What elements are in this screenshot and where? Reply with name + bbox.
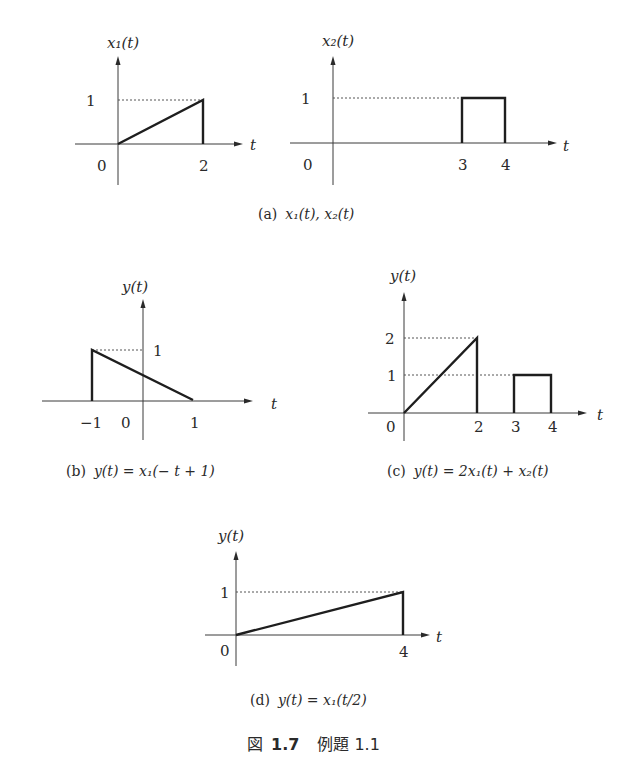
figure-caption: 図1.7例題 1.1 — [247, 735, 380, 754]
figure-1-7: x₁(t) 1 0 2 t x₂(t) 1 0 3 4 t (a)x₁(t), … — [0, 0, 629, 782]
signal-x2 — [514, 375, 551, 413]
signal-x2 — [462, 98, 505, 143]
plot-b: y(t) 1 −1 0 1 t — [42, 278, 278, 440]
caption-c: (c)y(t) = 2x₁(t) + x₂(t) — [387, 463, 549, 479]
y-axis-arrow-icon — [116, 56, 121, 65]
y-axis-label: y(t) — [121, 278, 148, 296]
y-tick-1: 1 — [220, 584, 230, 602]
caption-a: (a)x₁(t), x₂(t) — [258, 206, 354, 222]
y-axis-label: y(t) — [217, 527, 244, 545]
plot-a-right-x2: x₂(t) 1 0 3 4 t — [290, 32, 570, 185]
plot-a-left-x1: x₁(t) 1 0 2 t — [75, 34, 257, 185]
x-tick-4: 4 — [501, 156, 511, 174]
figure-number-prefix: 図 — [247, 735, 263, 754]
y-axis-arrow-icon — [331, 56, 336, 65]
x-tick-0: 0 — [386, 418, 396, 436]
y-tick-2: 2 — [385, 330, 395, 348]
y-axis-arrow-icon — [141, 299, 146, 308]
x-tick-0: 0 — [97, 157, 107, 175]
plot-d: y(t) 1 0 4 t — [205, 527, 443, 666]
signal-2x1 — [404, 338, 477, 413]
t-axis-arrow-icon — [421, 633, 430, 638]
y-axis-arrow-icon — [234, 551, 239, 560]
t-axis-label: t — [436, 628, 443, 646]
x-tick-0: 0 — [303, 156, 313, 174]
y-tick-1: 1 — [387, 367, 397, 385]
y-tick-1: 1 — [301, 90, 311, 108]
y-tick-1: 1 — [153, 342, 163, 360]
x-tick-3: 3 — [458, 156, 468, 174]
y-tick-1: 1 — [86, 92, 96, 110]
t-axis-label: t — [271, 395, 278, 413]
t-axis-label: t — [563, 137, 570, 155]
caption-d: (d)y(t) = x₁(t/2) — [250, 692, 367, 708]
x-tick-3: 3 — [511, 418, 521, 436]
x-tick-neg1: −1 — [80, 414, 102, 432]
caption-b: (b)y(t) = x₁(− t + 1) — [66, 463, 215, 479]
t-axis-label: t — [250, 136, 257, 154]
signal-y — [236, 592, 403, 635]
t-axis-arrow-icon — [234, 142, 243, 147]
x-tick-4: 4 — [548, 418, 558, 436]
y-axis-arrow-icon — [402, 292, 407, 301]
t-axis-arrow-icon — [244, 399, 253, 404]
t-axis-label: t — [597, 406, 604, 424]
y-axis-label: x₁(t) — [107, 34, 139, 52]
plot-c: y(t) 2 1 0 2 3 4 t — [368, 267, 604, 441]
x-tick-4: 4 — [399, 643, 409, 661]
t-axis-arrow-icon — [548, 141, 557, 146]
t-axis-arrow-icon — [578, 411, 587, 416]
x-tick-2: 2 — [474, 418, 484, 436]
signal-x1 — [118, 100, 203, 144]
x-tick-0: 0 — [220, 642, 230, 660]
x-tick-1: 1 — [190, 414, 200, 432]
figure-number: 1.7 — [271, 735, 299, 754]
y-axis-label: x₂(t) — [322, 32, 354, 50]
x-tick-0: 0 — [121, 414, 131, 432]
figure-title: 例題 1.1 — [317, 735, 380, 754]
y-axis-label: y(t) — [389, 267, 416, 285]
x-tick-2: 2 — [199, 157, 209, 175]
